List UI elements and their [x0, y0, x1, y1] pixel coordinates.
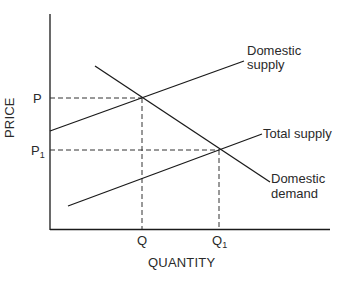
- price-p1-label: P1: [31, 143, 45, 163]
- domestic-demand-label-line1: Domestic: [271, 171, 325, 186]
- domestic-supply-line: [50, 61, 244, 131]
- total-supply-label: Total supply: [263, 126, 332, 141]
- domestic-supply-label-line2: supply: [247, 57, 285, 72]
- domestic-demand-label-line2: demand: [271, 186, 318, 201]
- price-p-label: P: [33, 91, 42, 106]
- total-supply-line: [68, 134, 262, 206]
- price-p1-main: P: [31, 143, 40, 158]
- x-axis-label: QUANTITY: [148, 255, 215, 270]
- domestic-supply-label-line1: Domestic: [247, 43, 301, 58]
- quantity-q1-sub: 1: [222, 240, 227, 250]
- price-p1-sub: 1: [40, 150, 45, 160]
- quantity-q1-main: Q: [212, 233, 222, 248]
- quantity-q-label: Q: [137, 233, 147, 248]
- quantity-q1-label: Q1: [212, 233, 227, 253]
- y-axis-label: PRICE: [2, 97, 17, 138]
